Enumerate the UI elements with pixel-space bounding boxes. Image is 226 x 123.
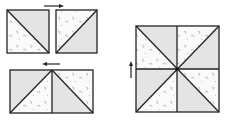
step3-pinwheel-block xyxy=(136,26,219,112)
step2-pair xyxy=(10,70,93,113)
quilt-diagram xyxy=(0,0,226,123)
center-point xyxy=(175,67,178,70)
hst-unit-right xyxy=(56,10,97,53)
arrow-left-icon xyxy=(42,62,60,66)
hst-unit-left xyxy=(7,10,49,53)
step1-units xyxy=(7,10,97,53)
arrow-right-icon xyxy=(44,4,64,8)
arrow-up-icon xyxy=(129,61,133,78)
